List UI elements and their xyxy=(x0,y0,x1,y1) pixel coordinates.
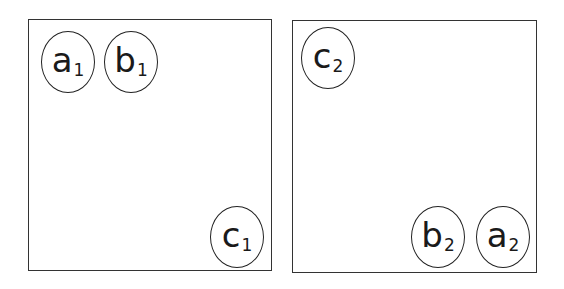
node-c1: c1 xyxy=(210,206,264,268)
node-a1: a1 xyxy=(41,31,95,93)
node-subscript: 1 xyxy=(137,62,148,79)
node-b1: b1 xyxy=(104,31,158,93)
node-c2: c2 xyxy=(301,27,355,89)
node-letter: a xyxy=(487,218,508,252)
node-letter: c xyxy=(222,218,241,252)
node-a2: a2 xyxy=(476,206,530,268)
node-letter: a xyxy=(52,43,73,77)
node-subscript: 2 xyxy=(332,58,343,75)
node-subscript: 1 xyxy=(74,62,85,79)
node-letter: b xyxy=(114,43,136,77)
node-subscript: 2 xyxy=(509,237,520,254)
node-subscript: 1 xyxy=(241,237,252,254)
node-letter: b xyxy=(421,218,443,252)
node-b2: b2 xyxy=(411,206,465,268)
node-letter: c xyxy=(313,39,332,73)
node-subscript: 2 xyxy=(444,237,455,254)
